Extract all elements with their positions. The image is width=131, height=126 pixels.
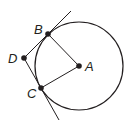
point-d xyxy=(21,55,27,61)
point-c xyxy=(38,85,44,91)
tangent-circle-diagram: ABCD xyxy=(0,0,131,126)
point-label-d: D xyxy=(8,51,17,66)
radius-ac xyxy=(41,66,79,88)
point-label-c: C xyxy=(27,86,37,101)
point-label-b: B xyxy=(34,22,43,37)
point-a xyxy=(76,63,82,69)
point-label-a: A xyxy=(84,59,94,74)
radius-ab xyxy=(48,34,79,66)
point-b xyxy=(45,31,51,37)
